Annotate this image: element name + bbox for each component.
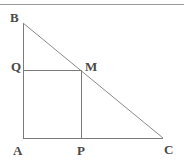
vertex-label-c: C — [164, 143, 173, 156]
vertex-label-p: P — [77, 144, 85, 157]
vertex-label-q: Q — [11, 60, 21, 73]
segment-bc — [23, 23, 163, 138]
geometry-canvas — [0, 0, 184, 165]
vertex-label-b: B — [10, 11, 19, 24]
vertex-label-a: A — [13, 144, 22, 157]
vertex-label-m: M — [85, 60, 97, 73]
geometry-figure: B Q M A P C — [0, 0, 184, 165]
